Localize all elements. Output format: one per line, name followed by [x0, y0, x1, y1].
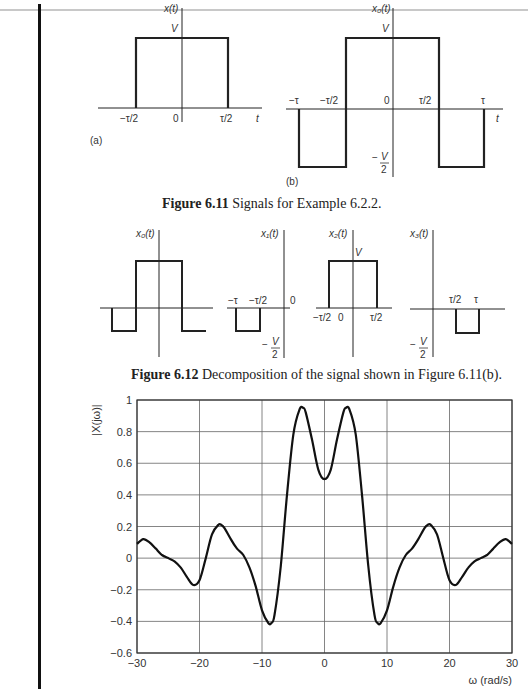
ytick-label: 0.4	[117, 489, 132, 501]
ytick-label: 1	[126, 394, 132, 406]
ytick-label: 0.8	[117, 426, 132, 438]
plot-ticks: −0.6−0.4−0.200.20.40.60.81−30−20−1001020…	[110, 394, 518, 669]
plot-xlabel: ω (rad/s)	[469, 674, 512, 686]
ytick-label: −0.4	[110, 615, 132, 627]
xtick-label: −10	[253, 657, 272, 669]
xtick-label: −20	[190, 657, 209, 669]
xtick-label: 0	[321, 657, 327, 669]
plot-grid	[137, 400, 512, 653]
plot-ylabel: |X(jω)|	[90, 404, 102, 435]
spectrum-plot: −0.6−0.4−0.200.20.40.60.81−30−20−1001020…	[0, 0, 528, 689]
ytick-label: 0.2	[117, 521, 132, 533]
xtick-label: 10	[381, 657, 393, 669]
ytick-label: 0.6	[117, 457, 132, 469]
xtick-label: −30	[128, 657, 147, 669]
xtick-label: 30	[506, 657, 518, 669]
ytick-label: −0.2	[110, 584, 132, 596]
ytick-label: 0	[126, 552, 132, 564]
xtick-label: 20	[443, 657, 455, 669]
